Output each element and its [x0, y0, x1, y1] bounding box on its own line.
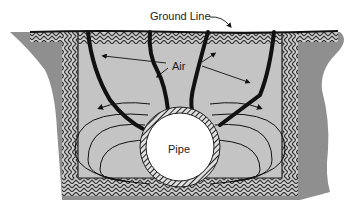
surface-right — [298, 32, 338, 42]
trench-wall-right — [282, 32, 298, 192]
pipe-label: Pipe — [168, 143, 190, 155]
surface-left — [30, 32, 62, 42]
trench-wall-left — [62, 32, 78, 192]
pipe-trench-diagram: Ground Line Air Pipe — [0, 0, 358, 219]
air-label: Air — [172, 60, 186, 72]
ground-line-label: Ground Line — [150, 10, 211, 22]
